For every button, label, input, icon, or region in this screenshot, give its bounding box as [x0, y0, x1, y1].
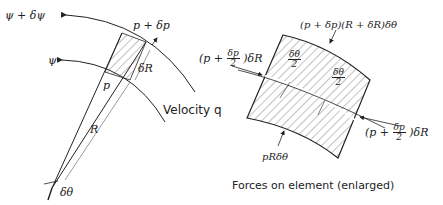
left-force-label: (p + δp2 )δR: [199, 49, 262, 68]
inner-streamline-label: ψ: [48, 55, 57, 66]
half-angle-label-2: δθ2: [332, 68, 345, 87]
half-angle-label-1: δθ2: [288, 50, 301, 69]
inner-pressure-label: p: [103, 80, 110, 91]
radius-label: R: [90, 124, 98, 135]
outer-pressure-label: p + δp: [133, 20, 170, 31]
figure-caption: Forces on element (enlarged): [232, 180, 394, 191]
bottom-force-label: pRδθ: [262, 152, 288, 162]
velocity-label: Velocity q: [163, 104, 222, 116]
right-force-label: (p + δp2 )δR: [365, 123, 428, 142]
outer-streamline-label: ψ + δψ: [5, 10, 45, 21]
radial-increment-label: δR: [138, 63, 153, 74]
top-force-label: (p + δp)(R + δR)δθ: [300, 20, 397, 30]
angle-label: δθ: [60, 187, 73, 198]
enlarged-element: [247, 35, 370, 158]
